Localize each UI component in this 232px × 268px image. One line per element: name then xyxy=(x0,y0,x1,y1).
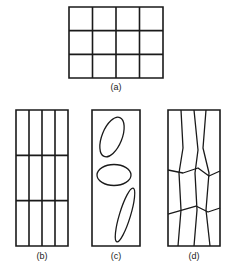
panel-c-ellipse-middle-horizontal xyxy=(97,165,131,186)
figure-container: (a) (b) (c) (d) xyxy=(0,0,232,268)
panel-d-vpath-1 xyxy=(178,110,183,246)
panel-a-grid xyxy=(67,5,165,80)
panel-d-label: (d) xyxy=(168,251,220,261)
panel-c-ellipse-upper-tilted xyxy=(95,114,129,160)
panel-d-vpath-3 xyxy=(203,110,210,246)
panel-c-ellipse-lower-slender xyxy=(112,187,139,244)
panel-c-ellipses xyxy=(90,108,142,248)
panel-d-hpath-1 xyxy=(168,168,220,176)
panel-b-grid xyxy=(14,108,70,248)
panel-d-border xyxy=(168,110,220,246)
panel-c-label: (c) xyxy=(92,251,140,261)
panel-b-label: (b) xyxy=(16,251,68,261)
panel-d-irregular-mesh xyxy=(166,108,222,248)
panel-a-label: (a) xyxy=(69,82,163,92)
panel-d-hpath-2 xyxy=(168,206,220,214)
panel-d-vpath-2 xyxy=(194,110,198,246)
